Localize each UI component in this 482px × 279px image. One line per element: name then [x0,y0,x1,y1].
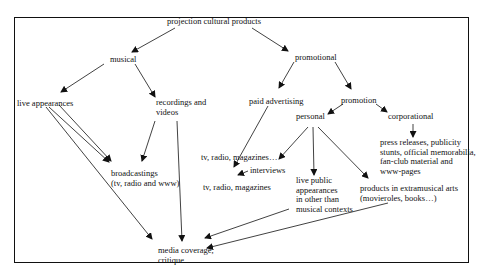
node-personal: personal [296,112,325,122]
node-live-public-appearances: live publicappearancesin other thanmusic… [296,176,353,214]
node-live-appearances: live appearances [17,99,73,109]
node-promotion: promotion [341,96,376,106]
node-corporational: corporational [388,112,433,122]
node-musical: musical [110,55,136,65]
node-press-releases: press releases, publicitystunts, officia… [380,138,476,176]
node-paid-advertising: paid advertising [249,97,304,107]
node-media-coverage: media coverage,critique [158,246,214,265]
node-broadcastings: broadcastings(tv, radio and www) [111,169,179,188]
node-products-extramusical: products in extramusical arts(movieroles… [360,184,458,203]
node-recordings: recordings andvideos [156,98,206,117]
node-tv-radio-magazines: tv, radio, magazines [203,183,271,193]
node-interviews: interviews [250,166,285,176]
node-promotional: promotional [295,53,337,63]
node-tv-radio-magazines-ellipsis: tv, radio, magazines… [201,153,277,163]
node-root: projection cultural products [167,17,261,27]
